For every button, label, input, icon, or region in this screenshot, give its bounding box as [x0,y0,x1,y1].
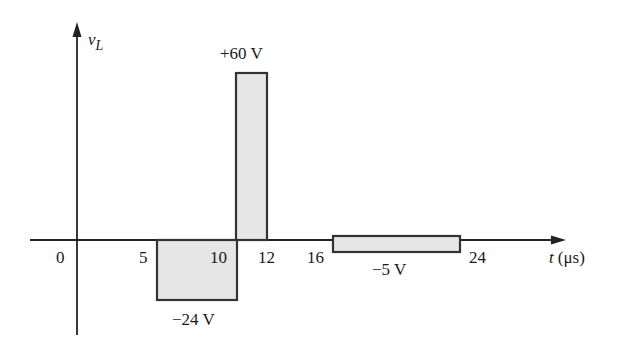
x-axis-arrow-icon [551,236,566,245]
waveform-diagram: vL 0 5 10 12 16 24 t(μs) +60 V −24 V −5 … [0,0,623,348]
label-plus-60v: +60 V [220,44,264,63]
label-minus-24v: −24 V [172,310,216,329]
x-tick-16: 16 [307,248,324,267]
y-axis-arrow-icon [73,22,82,37]
x-tick-5: 5 [139,248,148,267]
label-minus-5v: −5 V [372,260,407,279]
x-tick-0: 0 [56,248,65,267]
x-tick-12: 12 [258,248,275,267]
x-axis-label: t(μs) [549,248,585,267]
x-tick-24: 24 [469,248,487,267]
y-axis-label: vL [88,30,104,53]
pulse-negative-5v [333,236,460,252]
pulse-positive-60v [236,73,267,240]
x-tick-10: 10 [210,248,227,267]
